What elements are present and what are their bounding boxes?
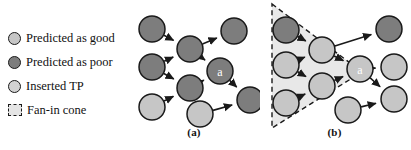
graph-node	[381, 54, 407, 80]
dashed-square-icon	[8, 104, 22, 116]
graph-node-label: a	[217, 65, 223, 79]
circle-light-gray-icon	[8, 32, 21, 45]
graph-node	[237, 87, 260, 113]
graph-edge	[230, 80, 237, 87]
figure-root: Predicted as good Predicted as poor Inse…	[0, 0, 411, 150]
graph-edge	[164, 74, 174, 80]
graph-node	[177, 75, 203, 101]
graph-edge	[361, 103, 376, 107]
graph-node	[139, 16, 165, 42]
legend-item-label: Inserted TP	[26, 80, 84, 93]
circle-light-gray-icon	[8, 80, 21, 93]
legend: Predicted as good Predicted as poor Inse…	[8, 26, 126, 122]
graph-edge	[202, 38, 216, 44]
graph-node	[309, 37, 335, 63]
graph-node-label: a	[357, 63, 363, 77]
graph-node	[139, 54, 165, 80]
graph-edge	[201, 57, 205, 60]
graph-edge	[335, 35, 371, 46]
graph-node	[187, 101, 213, 127]
graph-node	[376, 16, 402, 42]
panel-b: a (b)	[258, 0, 411, 150]
legend-item-predicted-poor: Predicted as poor	[8, 50, 126, 74]
panel-b-caption: (b)	[258, 126, 411, 138]
legend-item-fan-in-cone: Fan-in cone	[8, 98, 126, 122]
legend-item-predicted-good: Predicted as good	[8, 26, 126, 50]
panel-a-caption: (a)	[128, 126, 260, 138]
graph-edge	[202, 80, 204, 81]
graph-node	[273, 90, 299, 116]
graph-node	[309, 73, 335, 99]
graph-edge	[164, 96, 173, 101]
graph-edge	[164, 35, 174, 40]
graph-node	[273, 17, 299, 43]
legend-item-label: Fan-in cone	[27, 104, 86, 117]
graph-edge	[164, 57, 173, 61]
graph-node	[177, 36, 203, 62]
graph-node	[273, 52, 299, 78]
legend-item-label: Predicted as good	[26, 32, 115, 45]
graph-node	[221, 18, 247, 44]
graph-edge	[213, 105, 232, 110]
graph-node	[139, 94, 165, 120]
graph-node	[381, 86, 407, 112]
panel-a: a (a)	[128, 0, 260, 150]
legend-item-inserted-tp: Inserted TP	[8, 74, 126, 98]
graph-node	[335, 97, 361, 123]
circle-dark-gray-icon	[8, 56, 21, 69]
legend-item-label: Predicted as poor	[26, 56, 113, 69]
graph-edge	[370, 78, 380, 87]
